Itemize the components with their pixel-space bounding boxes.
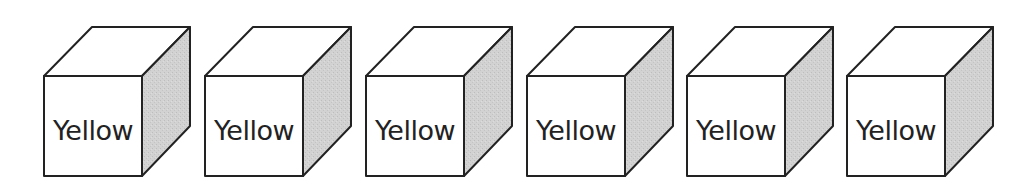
cube-label: Yellow [855,115,936,146]
cube-label: Yellow [213,115,294,146]
cube-3: Yellow [366,27,512,176]
cube-4: Yellow [527,27,673,176]
cube-2: Yellow [205,27,351,176]
cube-1: Yellow [44,27,190,176]
cube-label: Yellow [52,115,133,146]
cubes-diagram: Yellow Yellow Yellow Yellow Yellow Yello… [0,0,1016,184]
cube-label: Yellow [695,115,776,146]
cube-5: Yellow [687,27,833,176]
cube-label: Yellow [374,115,455,146]
cube-label: Yellow [535,115,616,146]
cube-6: Yellow [847,27,993,176]
